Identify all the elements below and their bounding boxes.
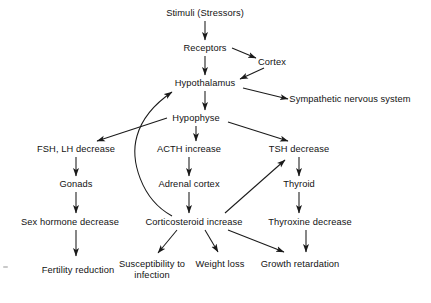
- node-corticosteroid-increase: Corticosteroid increase: [145, 217, 242, 228]
- edge-corticosteroid-tsh-feedback: [225, 160, 285, 213]
- node-weight-loss: Weight loss: [196, 259, 245, 270]
- scan-artifact: [3, 266, 8, 268]
- node-gonads: Gonads: [59, 179, 92, 190]
- node-sex-hormone-decrease: Sex hormone decrease: [21, 217, 119, 228]
- node-hypothalamus: Hypothalamus: [175, 78, 236, 89]
- node-growth-retardation: Growth retardation: [261, 259, 340, 270]
- edge-hypothalamus-sympathetic: [243, 88, 288, 99]
- node-thyroxine-decrease: Thyroxine decrease: [268, 217, 351, 228]
- node-susceptibility-to-infection: Susceptibility to infection: [115, 259, 189, 280]
- node-thyroid: Thyroid: [283, 179, 315, 190]
- edge-receptors-cortex: [232, 48, 256, 58]
- node-hypophyse: Hypophyse: [172, 113, 219, 124]
- stress-response-diagram: Stimuli (Stressors) Receptors Cortex Hyp…: [0, 0, 431, 303]
- node-receptors: Receptors: [183, 43, 226, 54]
- node-tsh-decrease: TSH decrease: [269, 144, 330, 155]
- edge-hypophyse-tsh: [228, 122, 288, 141]
- node-sympathetic-nervous-system: Sympathetic nervous system: [289, 94, 410, 105]
- edge-hypophyse-fsh-lh: [97, 118, 167, 141]
- edge-corticosteroid-growth: [228, 230, 284, 252]
- node-acth-increase: ACTH increase: [157, 144, 221, 155]
- node-adrenal-cortex: Adrenal cortex: [158, 179, 219, 190]
- node-fsh-lh-decrease: FSH, LH decrease: [37, 144, 115, 155]
- edge-cortex-hypothalamus: [240, 68, 264, 79]
- node-fertility-reduction: Fertility reduction: [41, 265, 115, 276]
- edge-corticosteroid-weight-loss: [205, 230, 218, 252]
- node-cortex: Cortex: [258, 57, 286, 68]
- edge-corticosteroid-susceptibility: [158, 230, 177, 253]
- node-stimuli: Stimuli (Stressors): [166, 8, 244, 19]
